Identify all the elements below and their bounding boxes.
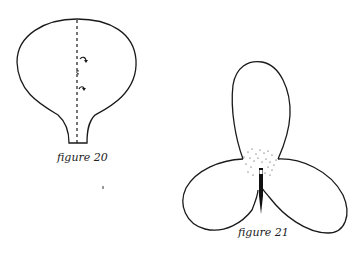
figure-21-drawing: [183, 62, 347, 233]
speck: [102, 186, 104, 189]
right-petal-outline: [262, 159, 347, 233]
curl-mark-icon: [77, 71, 79, 74]
figure-21-caption: figure 21: [238, 226, 289, 239]
stamen-tip: [260, 170, 263, 174]
stamen: [259, 168, 263, 214]
fold-arrow-head-icon: [82, 88, 86, 91]
figure-20-drawing: [17, 19, 136, 143]
left-petal-outline: [183, 159, 258, 230]
figure-20-caption: figure 20: [57, 151, 108, 164]
fold-arrow-head-icon: [84, 60, 88, 63]
top-petal-outline: [232, 62, 290, 159]
illustration-canvas: [0, 0, 363, 262]
